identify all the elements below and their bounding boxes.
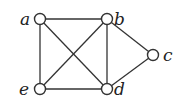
node-c [148,50,159,61]
node-b [102,14,113,25]
node-e [35,84,46,95]
node-a [35,14,46,25]
node-d [102,84,113,95]
node-label-c: c [163,45,173,65]
nodes [35,14,159,95]
graph-diagram: abcde [0,0,182,101]
node-label-b: b [114,9,125,29]
node-label-e: e [19,79,29,99]
node-label-a: a [20,9,30,29]
node-label-d: d [114,79,125,99]
edges [40,19,153,89]
